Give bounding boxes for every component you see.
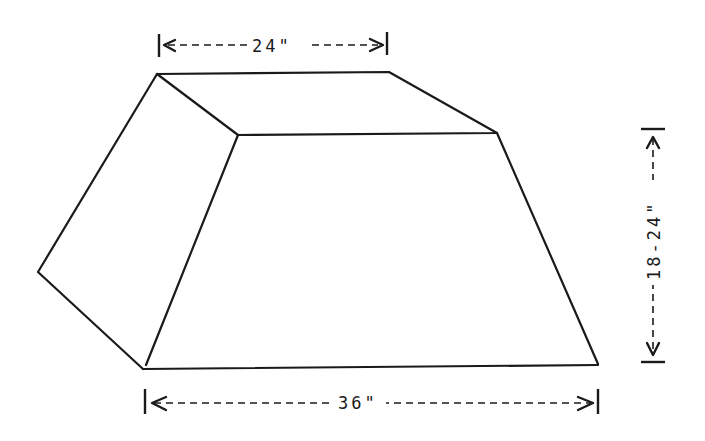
top-width-label: 24": [252, 36, 292, 56]
bottom-width-label: 36": [338, 393, 378, 413]
left-face-edge: [38, 74, 157, 369]
front-left-edge: [146, 135, 238, 365]
bottom-edge: [143, 365, 598, 369]
top-dimension: 24": [159, 32, 387, 57]
front-right-edge: [497, 133, 598, 364]
frustum-shape: [38, 72, 598, 369]
height-dimension: 18-24": [641, 129, 665, 362]
top-face-edge: [157, 72, 497, 135]
bottom-dimension: 36": [145, 389, 598, 414]
frustum-diagram: 24" 18-24" 36": [0, 0, 705, 441]
height-label: 18-24": [644, 201, 664, 280]
